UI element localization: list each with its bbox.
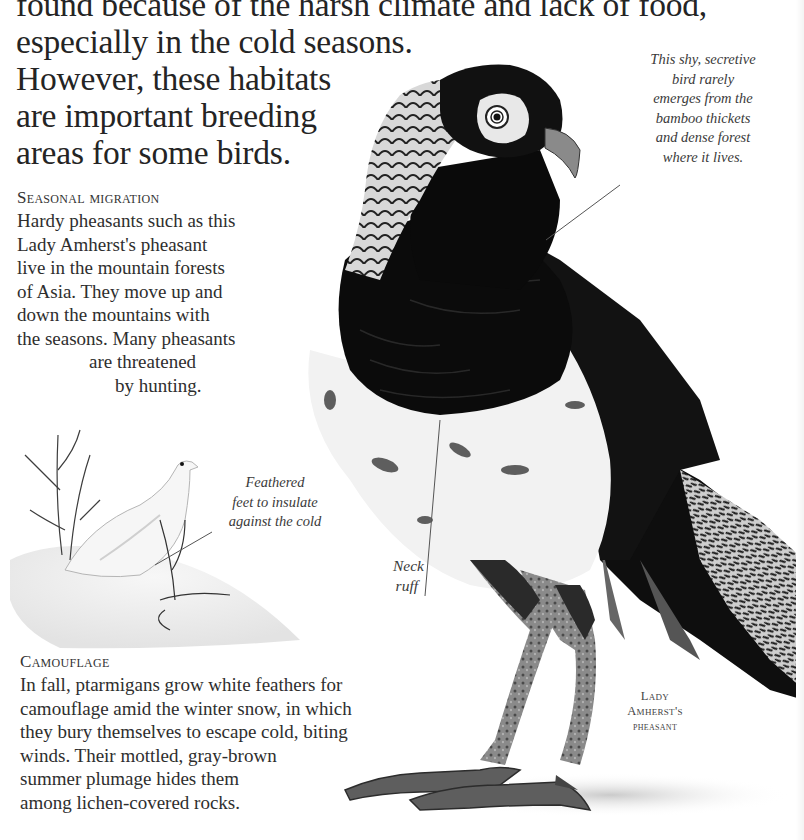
- section-body: In fall, ptarmigans grow white feathers …: [20, 673, 352, 814]
- intro-line: However, these habitats: [16, 60, 707, 97]
- label-line: Lady: [600, 689, 710, 704]
- caption-line: where it lives.: [628, 148, 778, 168]
- label-line: ruff: [380, 576, 424, 596]
- neck-ruff-label: Neck ruff: [380, 556, 424, 596]
- label-line: pheasant: [600, 719, 710, 734]
- body-line: In fall, ptarmigans grow white feathers …: [20, 673, 352, 697]
- section-body: Hardy pheasants such as this Lady Amhers…: [17, 209, 235, 397]
- label-line: Amherst's: [600, 704, 710, 719]
- body-line: winds. Their mottled, gray-brown: [20, 744, 352, 768]
- body-line: they bury themselves to escape cold, bit…: [20, 720, 352, 744]
- ptarmigan-illustration: [10, 430, 300, 648]
- feathered-feet-caption: Feathered feet to insulate against the c…: [215, 473, 335, 532]
- caption-line: against the cold: [215, 512, 335, 532]
- body-line: among lichen-covered rocks.: [20, 791, 352, 815]
- body-line: down the mountains with: [17, 303, 235, 327]
- caption-line: This shy, secretive: [628, 50, 778, 70]
- section-heading: Seasonal migration: [17, 188, 235, 208]
- body-line: Hardy pheasants such as this: [17, 209, 235, 233]
- body-line: by hunting.: [17, 374, 235, 398]
- intro-line: areas for some birds.: [16, 134, 707, 171]
- intro-line: found because of the harsh climate and l…: [16, 0, 707, 23]
- caption-line: emerges from the: [628, 89, 778, 109]
- body-line: summer plumage hides them: [20, 767, 352, 791]
- intro-line: especially in the cold seasons.: [16, 23, 707, 60]
- body-line: Lady Amherst's pheasant: [17, 233, 235, 257]
- caption-line: bamboo thickets: [628, 109, 778, 129]
- caption-line: and dense forest: [628, 128, 778, 148]
- label-line: Neck: [380, 556, 424, 576]
- page-gutter-edge: [796, 0, 804, 840]
- pheasant-species-label: Lady Amherst's pheasant: [600, 689, 710, 734]
- body-line: live in the mountain forests: [17, 256, 235, 280]
- caption-line: feet to insulate: [215, 493, 335, 513]
- seasonal-migration-section: Seasonal migration Hardy pheasants such …: [17, 188, 235, 397]
- pheasant-behavior-caption: This shy, secretive bird rarely emerges …: [628, 50, 778, 167]
- caption-line: bird rarely: [628, 70, 778, 90]
- camouflage-section: Camouflage In fall, ptarmigans grow whit…: [20, 652, 352, 814]
- caption-line: Feathered: [215, 473, 335, 493]
- section-heading: Camouflage: [20, 652, 352, 672]
- body-line: of Asia. They move up and: [17, 280, 235, 304]
- intro-line: are important breeding: [16, 97, 707, 134]
- body-line: are threatened: [17, 350, 235, 374]
- body-line: camouflage amid the winter snow, in whic…: [20, 697, 352, 721]
- intro-paragraph: found because of the harsh climate and l…: [16, 0, 707, 171]
- body-line: the seasons. Many pheasants: [17, 327, 235, 351]
- pheasant-illustration: [308, 65, 804, 817]
